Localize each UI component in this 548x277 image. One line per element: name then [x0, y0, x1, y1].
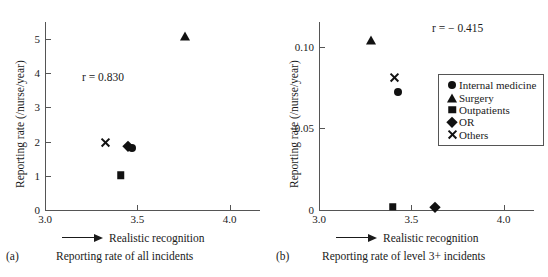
data-point-square [389, 203, 397, 211]
x-axis-direction-label-b: Realistic recognition [383, 232, 479, 244]
panel-caption-b: Reporting rate of level 3+ incidents [322, 250, 485, 262]
correlation-text-b: r = − 0.415 [432, 22, 483, 34]
panel-b: 00.050.103.03.54.0 Reporting rate (/nurs… [274, 0, 548, 277]
y-tick [46, 142, 51, 143]
y-tick [46, 107, 51, 108]
legend-marker [445, 129, 459, 141]
y-tick [46, 73, 51, 74]
correlation-text-a: r = 0.830 [82, 71, 124, 83]
legend: Internal medicineSurgeryOutpatientsOROth… [438, 74, 544, 146]
x-tick [137, 205, 138, 210]
data-point-square [117, 172, 125, 180]
panel-tag-b: (b) [276, 250, 289, 262]
x-tick-label: 4.0 [223, 214, 237, 225]
right-arrow-icon [336, 234, 378, 242]
data-point-circle [394, 88, 402, 96]
x-axis-direction-b: Realistic recognition [336, 232, 479, 244]
data-point-x [100, 137, 111, 148]
y-axis-line [319, 22, 320, 211]
x-tick [230, 205, 231, 210]
y-tick [320, 210, 325, 211]
x-tick-label: 3.5 [130, 214, 144, 225]
legend-item-surgery: Surgery [445, 91, 536, 103]
x-tick-label: 3.0 [312, 214, 326, 225]
square-icon [448, 106, 456, 114]
panel-a: 0123453.03.54.0 Reporting rate (/nurse/y… [0, 0, 274, 277]
legend-label: Internal medicine [459, 79, 536, 91]
x-axis-line [319, 210, 534, 211]
y-axis-label-b: Reporting rate (/nurse/year) [288, 60, 300, 188]
y-axis-line [45, 22, 46, 211]
data-point-circle [128, 144, 136, 152]
x-tick-label: 3.5 [404, 214, 418, 225]
circle-icon [448, 81, 456, 89]
y-tick [46, 39, 51, 40]
x-tick-label: 3.0 [38, 214, 52, 225]
y-tick-label: 5 [3, 34, 40, 45]
legend-marker [445, 92, 459, 104]
legend-label: Outpatients [459, 104, 510, 116]
panel-caption-a: Reporting rate of all incidents [56, 250, 193, 262]
diamond-icon [447, 117, 458, 128]
legend-item-outpatients: Outpatients [445, 104, 536, 116]
legend-item-internal-medicine: Internal medicine [445, 79, 536, 91]
correlation-annotation-a: r = 0.830 [82, 71, 124, 83]
x-axis-line [45, 210, 260, 211]
y-tick-label: 0.10 [277, 41, 314, 52]
x-tick-label: 4.0 [497, 214, 511, 225]
legend-label: Others [459, 129, 488, 141]
right-arrow-icon [62, 234, 104, 242]
legend-item-or: OR [445, 116, 536, 128]
legend-marker [445, 104, 459, 116]
legend-label: OR [459, 116, 474, 128]
data-point-x [389, 72, 400, 83]
y-tick [320, 128, 325, 129]
legend-item-others: Others [445, 129, 536, 141]
panel-tag-a: (a) [6, 250, 19, 262]
legend-marker [445, 79, 459, 91]
triangle-icon [447, 93, 457, 102]
x-icon [447, 129, 458, 140]
data-point-triangle [180, 31, 190, 40]
y-axis-label-a: Reporting rate (/nurse/year) [14, 60, 26, 188]
figure-scatter-pair: 0123453.03.54.0 Reporting rate (/nurse/y… [0, 0, 548, 277]
data-point-triangle [366, 35, 376, 44]
y-tick [46, 210, 51, 211]
y-tick-label: 0 [277, 205, 314, 216]
legend-marker [445, 116, 459, 128]
y-tick-label: 0 [3, 205, 40, 216]
x-axis-direction-label-a: Realistic recognition [109, 232, 205, 244]
y-tick [320, 47, 325, 48]
legend-label: Surgery [459, 92, 494, 104]
correlation-annotation-b: r = − 0.415 [432, 22, 483, 34]
y-tick [46, 176, 51, 177]
x-tick [504, 205, 505, 210]
x-tick [411, 205, 412, 210]
x-axis-direction-a: Realistic recognition [62, 232, 205, 244]
